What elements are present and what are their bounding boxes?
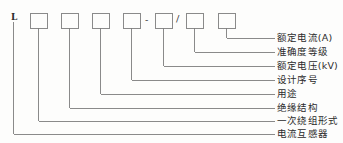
diagram-lines: [0, 0, 343, 143]
leader-device-name: [14, 22, 276, 134]
code-box-5: [155, 13, 172, 28]
code-box-2: [61, 13, 78, 28]
leader-design-serial: [132, 28, 276, 80]
code-box-1: [30, 13, 47, 28]
code-box-6: [186, 13, 203, 28]
code-box-7: [218, 13, 235, 28]
diagram-canvas: L - / 额定电流(A) 准确度等级 额定电压(kV) 设计序号 用途 绝缘结…: [0, 0, 343, 143]
code-box-3: [92, 13, 109, 28]
code-box-4: [123, 13, 140, 28]
leader-rated-current: [227, 28, 276, 38]
leader-accuracy-class: [195, 28, 276, 52]
leader-primary-winding: [39, 28, 276, 121]
leader-rated-voltage: [164, 28, 276, 66]
